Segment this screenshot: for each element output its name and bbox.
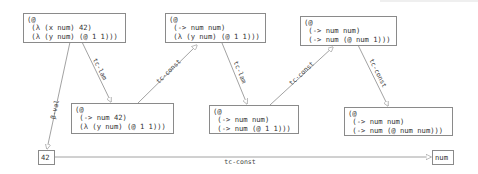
edge-label-tc-const-3: tc-const <box>367 57 388 89</box>
term-node-2[interactable]: (@ (-> num num) (λ (y num) (@ 1 1))) <box>165 13 266 43</box>
reduction-graph: β-val tc-lam tc-const tc-lam tc-const tc… <box>0 0 478 174</box>
edge-label-beta-val: β-val <box>49 99 61 120</box>
term-node-6[interactable]: (@ (-> num num) (-> num (@ num num))) <box>344 107 453 136</box>
edge-beta-val <box>47 42 70 149</box>
edge-label-tc-const-1: tc-const <box>155 58 183 86</box>
edge-label-tc-const-2: tc-const <box>287 60 315 87</box>
term-node-3[interactable]: (@ (-> num num) (-> num (@ num 1))) <box>300 16 397 46</box>
value-node-42[interactable]: 42 <box>38 150 55 165</box>
term-node-1[interactable]: (@ (λ (x num) 42) (λ (y num) (@ 1 1))) <box>23 13 126 43</box>
edge-label-tc-lam-1: tc-lam <box>91 57 109 82</box>
edge-label-tc-const-4: tc-const <box>224 158 255 166</box>
term-node-4[interactable]: (@ (-> num 42) (λ (y num) (@ 1 1))) <box>71 103 174 134</box>
type-node-num[interactable]: num <box>432 150 454 165</box>
term-node-5[interactable]: (@ (-> num num) (-> num (@ 1 1))) <box>209 105 299 134</box>
